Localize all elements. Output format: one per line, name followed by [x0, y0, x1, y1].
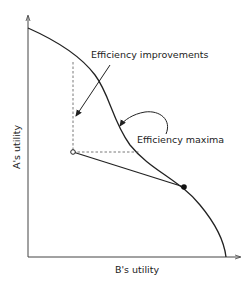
- y-axis-label: A's utility: [11, 125, 22, 169]
- efficiency-maxima-arrow-icon: [120, 112, 168, 134]
- efficiency-improvements-label: Efficiency improvements: [91, 49, 209, 60]
- efficiency-maxima-label: Efficiency maxima: [137, 134, 224, 145]
- start-point-open-circle: [71, 150, 76, 155]
- efficiency-improvement-line: [73, 152, 184, 187]
- x-axis-label: B's utility: [115, 264, 159, 275]
- end-point-filled-circle: [181, 184, 187, 190]
- utility-possibility-diagram: Efficiency improvements Efficiency maxim…: [0, 0, 250, 289]
